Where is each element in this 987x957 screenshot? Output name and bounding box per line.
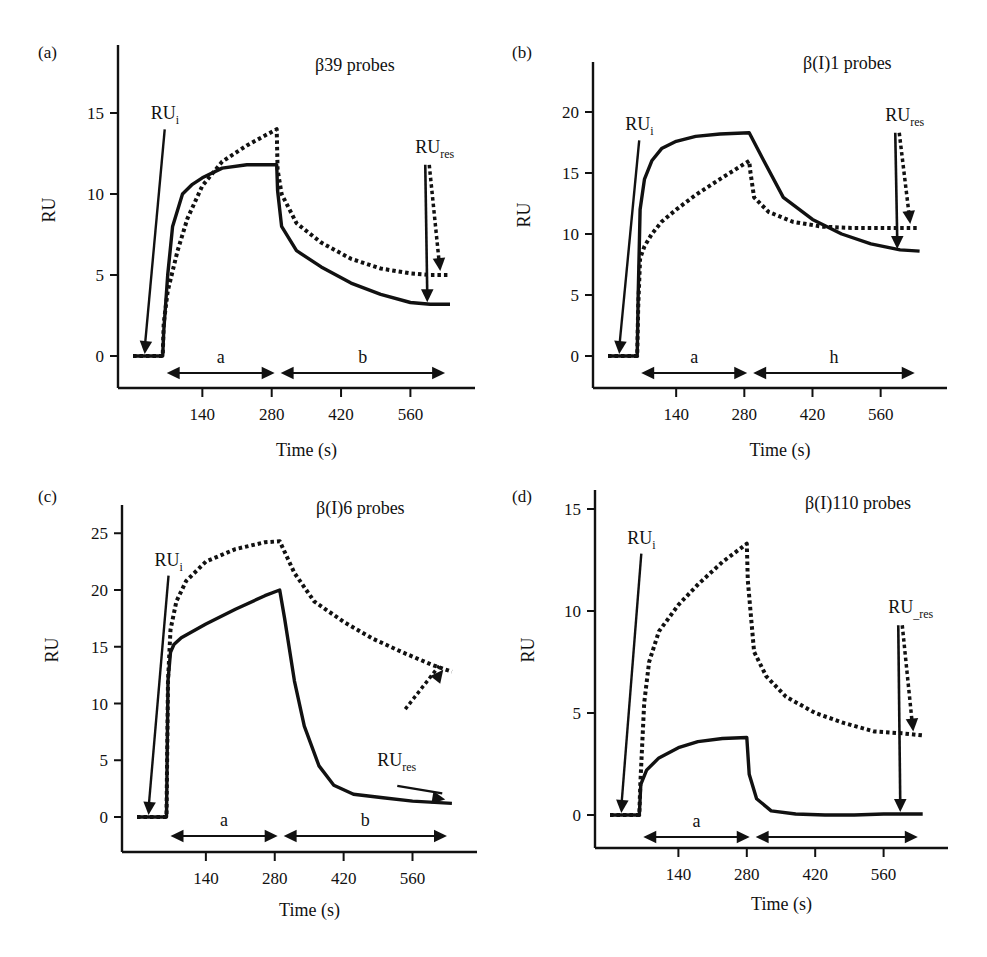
arrow-down-icon — [614, 340, 626, 354]
ru-res-dotted-arrow — [405, 666, 439, 709]
arrow-down-icon — [421, 289, 434, 302]
arrow-down-icon — [143, 802, 155, 815]
chart-panel-c: (c) β(I)6 probes 0510152025140280420560T… — [0, 470, 490, 957]
arrow-down-icon — [902, 210, 914, 224]
x-tick-label: 140 — [193, 869, 219, 888]
ru-res-dotted-arrow — [902, 625, 912, 723]
plot-area: RUiRUresab — [133, 103, 455, 379]
y-tick-label: 5 — [573, 704, 582, 723]
ru-res-label: RUres — [885, 105, 924, 129]
phase-a-label: a — [220, 810, 228, 830]
y-tick-label: 20 — [562, 103, 579, 122]
axes: 051015140280420560Time (s)RU — [39, 45, 475, 461]
x-tick-label: 280 — [732, 405, 758, 424]
panel-label: (c) — [38, 487, 57, 506]
panel-title: β39 probes — [315, 55, 395, 75]
arrow-left-icon — [284, 830, 297, 843]
y-axis-label: RU — [42, 637, 62, 662]
chart-panel-d: (d) β(I)110 probes 051015140280420560Tim… — [490, 470, 987, 957]
y-tick-label: 15 — [564, 500, 581, 519]
solid-series-line — [133, 165, 450, 356]
ru-i-arrow — [621, 554, 641, 807]
x-tick-label: 560 — [868, 405, 894, 424]
ru-i-label: RUi — [625, 114, 654, 138]
y-tick-label: 10 — [564, 602, 581, 621]
arrow-left-icon — [171, 830, 184, 843]
arrow-left-icon — [753, 367, 766, 380]
arrow-left-icon — [643, 831, 656, 844]
y-tick-label: 20 — [91, 581, 108, 600]
y-tick-label: 0 — [96, 347, 105, 366]
chart-panel-a: (a) β39 probes 051015140280420560Time (s… — [0, 0, 490, 470]
dotted-series-line — [608, 161, 920, 356]
x-tick-label: 420 — [800, 405, 826, 424]
chart-svg: (c) β(I)6 probes 0510152025140280420560T… — [0, 470, 490, 957]
ru-res-arrow — [898, 625, 900, 804]
arrow-down-icon — [906, 718, 918, 732]
panel-title: β(I)110 probes — [805, 493, 911, 514]
arrow-down-icon — [433, 257, 445, 271]
panel-title: β(I)6 probes — [316, 498, 405, 519]
y-tick-label: 15 — [91, 638, 108, 657]
x-tick-label: 560 — [400, 869, 426, 888]
ru-res-dotted-arrow — [429, 165, 439, 263]
phase-a-label: a — [690, 347, 698, 367]
ru-res-label: RUres — [415, 137, 454, 161]
arrow-left-icon — [756, 831, 769, 844]
arrow-right-icon — [902, 367, 915, 380]
y-tick-label: 0 — [100, 808, 109, 827]
x-tick-label: 420 — [328, 405, 354, 424]
phase-a-label: a — [217, 347, 225, 367]
arrow-right-icon — [432, 367, 445, 380]
axes: 0510152025140280420560Time (s)RU — [42, 505, 477, 921]
x-tick-label: 560 — [398, 405, 424, 424]
x-tick-label: 140 — [666, 865, 692, 884]
plot-area: RUiRUresab — [137, 541, 452, 842]
arrow-right-icon — [737, 831, 750, 844]
y-axis-label: RU — [514, 202, 534, 227]
phase-b-label: h — [829, 347, 838, 367]
y-axis-label: RU — [39, 197, 59, 222]
arrow-right-icon — [265, 830, 278, 843]
arrow-left-icon — [167, 367, 180, 380]
y-axis-label: RU — [518, 637, 538, 662]
phase-b-label: b — [361, 810, 370, 830]
x-tick-label: 280 — [259, 405, 285, 424]
arrow-right-icon — [434, 830, 447, 843]
arrow-right-icon — [262, 367, 275, 380]
ru-res-arrow — [397, 786, 442, 793]
y-tick-label: 5 — [100, 751, 109, 770]
axes: 051015140280420560Time (s)RU — [518, 490, 948, 915]
y-tick-label: 15 — [87, 104, 104, 123]
y-tick-label: 10 — [87, 185, 104, 204]
arrow-right-icon — [905, 831, 918, 844]
x-tick-label: 140 — [663, 405, 689, 424]
chart-svg: (a) β39 probes 051015140280420560Time (s… — [0, 0, 490, 470]
arrow-right-icon — [734, 367, 747, 380]
plot-area: RUiRU_resa — [610, 528, 934, 844]
x-axis-label: Time (s) — [751, 894, 812, 915]
ru-res-dotted-arrow — [899, 133, 909, 216]
axes: 05101520140280420560Time (s)RU — [514, 62, 947, 461]
ru-i-label: RUi — [155, 550, 184, 574]
chart-svg: (b) β(I)1 probes 05101520140280420560Tim… — [490, 0, 987, 470]
y-tick-label: 10 — [562, 225, 579, 244]
arrow-left-icon — [281, 367, 294, 380]
arrow-down-icon — [894, 799, 907, 812]
chart-panel-b: (b) β(I)1 probes 05101520140280420560Tim… — [490, 0, 987, 470]
x-tick-label: 280 — [734, 865, 760, 884]
y-tick-label: 5 — [571, 286, 580, 305]
solid-series-line — [608, 133, 920, 356]
ru-res-arrow — [895, 133, 897, 241]
x-tick-label: 560 — [871, 865, 897, 884]
x-axis-label: Time (s) — [750, 440, 811, 461]
x-tick-label: 140 — [190, 405, 216, 424]
y-tick-label: 5 — [96, 266, 105, 285]
ru-i-label: RUi — [151, 103, 180, 127]
arrow-down-icon — [140, 341, 152, 354]
x-tick-label: 280 — [262, 869, 288, 888]
x-axis-label: Time (s) — [279, 900, 340, 921]
x-tick-label: 420 — [331, 869, 357, 888]
ru-res-label: RU_res — [888, 597, 933, 621]
ru-i-label: RUi — [627, 528, 656, 552]
